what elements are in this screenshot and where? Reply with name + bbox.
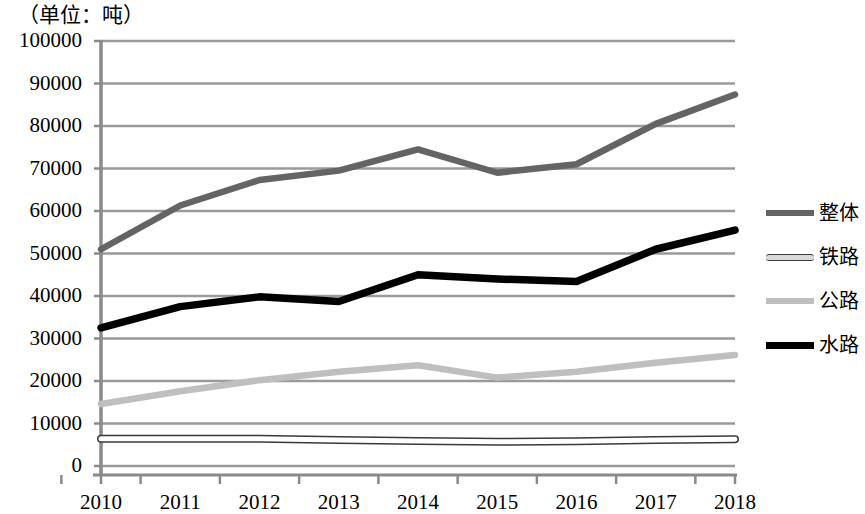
- x-axis-tick-label: 2016: [556, 490, 598, 514]
- legend-item[interactable]: 整体: [766, 196, 859, 230]
- x-axis-tick-label: 2010: [80, 490, 122, 514]
- road-line-swatch: [766, 295, 814, 307]
- x-axis-tick-labels: 201020112012201320142015201620172018: [0, 478, 865, 512]
- legend-label: 整体: [819, 202, 859, 224]
- chart-screenshot: （单位：吨） 100000900008000070000600005000040…: [0, 0, 865, 514]
- x-axis-tick-label: 2014: [397, 490, 439, 514]
- x-axis-tick-label: 2018: [714, 490, 756, 514]
- legend-label: 水路: [819, 334, 859, 356]
- x-axis-tick-label: 2015: [476, 490, 518, 514]
- water-line-swatch: [766, 339, 814, 351]
- overall-line-swatch: [766, 207, 814, 219]
- legend-item[interactable]: 铁路: [766, 240, 859, 274]
- legend-item[interactable]: 水路: [766, 328, 859, 362]
- legend-label: 公路: [819, 290, 859, 312]
- series-line-整体: [101, 95, 735, 250]
- chart-legend: 整体铁路公路水路: [766, 196, 865, 364]
- plot-area: [0, 0, 865, 514]
- x-axis-tick-label: 2012: [239, 490, 281, 514]
- series-line-水路: [101, 230, 735, 328]
- x-axis-tick-label: 2011: [160, 490, 201, 514]
- x-axis-tick-label: 2017: [635, 490, 677, 514]
- legend-item[interactable]: 公路: [766, 284, 859, 318]
- rail-line-swatch: [766, 251, 814, 263]
- legend-label: 铁路: [819, 246, 859, 268]
- x-axis-tick-label: 2013: [318, 490, 360, 514]
- series-line-公路: [101, 355, 735, 404]
